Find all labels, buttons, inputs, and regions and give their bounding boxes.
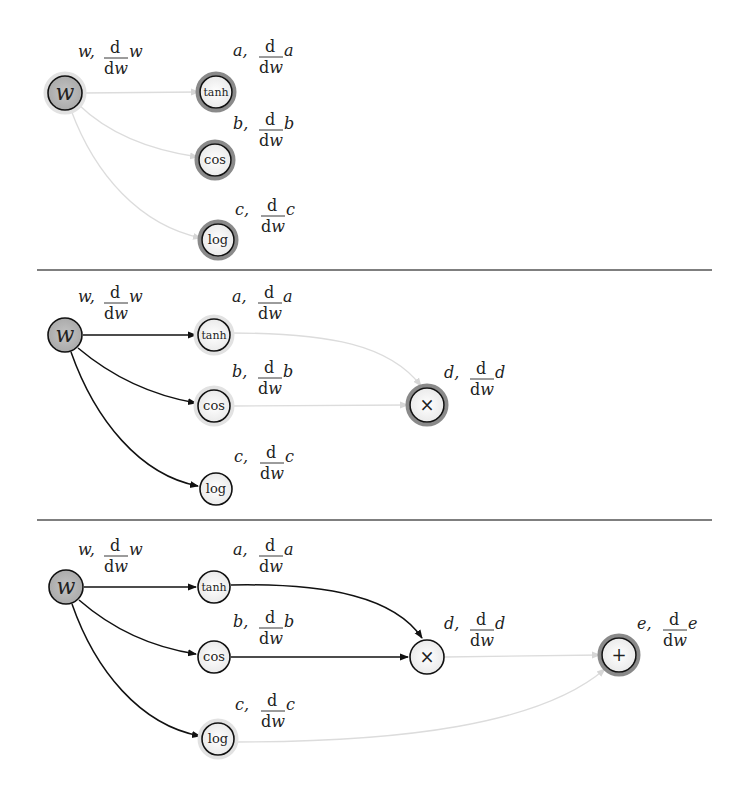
node-w[interactable]: ww,ddww	[48, 283, 143, 352]
node-w[interactable]: ww,ddww	[46, 38, 144, 113]
derivative-target-symbol: d	[495, 614, 505, 633]
value-symbol: a,	[233, 41, 248, 60]
panel-3: ww,ddwwtanha,ddwacosb,ddwblogc,ddwc×d,dd…	[49, 536, 697, 758]
derivative-numerator: d	[267, 691, 277, 710]
derivative-target-symbol: a	[284, 540, 294, 559]
node-glyph-log: log	[208, 232, 228, 247]
edge-w-to-log	[71, 352, 198, 486]
derivative-numerator: d	[265, 608, 275, 627]
derivative-target-symbol: e	[688, 614, 697, 633]
value-symbol: c,	[235, 695, 249, 714]
derivative-label-b: b,ddwb	[233, 110, 294, 150]
derivative-label-w: w,ddww	[78, 283, 143, 323]
derivative-numerator: d	[476, 610, 486, 629]
edge-cos-to-mul	[231, 405, 408, 406]
derivative-numerator: d	[267, 196, 277, 215]
node-glyph-w: w	[57, 574, 76, 599]
node-glyph-mul: ×	[419, 394, 434, 415]
derivative-label-c: c,ddwc	[234, 443, 294, 483]
node-mul[interactable]: ×d,ddwd	[410, 610, 505, 674]
value-symbol: d,	[444, 614, 459, 633]
panels: ww,ddwwtanha,ddwacosb,ddwblogc,ddwcww,dd…	[46, 37, 698, 758]
derivative-denominator: dw	[261, 712, 285, 731]
derivative-numerator: d	[110, 536, 120, 555]
derivative-numerator: d	[110, 283, 120, 302]
node-glyph-log: log	[208, 731, 228, 746]
derivative-label-w: w,ddww	[78, 38, 143, 78]
derivative-label-b: b,ddwb	[233, 608, 294, 648]
derivative-label-w: w,ddww	[78, 536, 143, 576]
nodes: ww,ddwwtanha,ddwacosb,ddwblogc,ddwc×d,dd…	[48, 283, 505, 505]
node-glyph-w: w	[56, 322, 75, 347]
node-log[interactable]: logc,ddwc	[200, 443, 294, 505]
derivative-label-e: e,ddwe	[637, 610, 697, 650]
value-symbol: w,	[78, 540, 95, 559]
derivative-denominator: dw	[663, 631, 687, 650]
edge-w-to-log	[71, 110, 201, 238]
derivative-numerator: d	[265, 37, 275, 56]
derivative-label-c: c,ddwc	[235, 196, 295, 236]
derivative-label-b: b,ddwb	[232, 358, 293, 398]
node-glyph-tanh: tanh	[203, 86, 228, 99]
computation-graph-canvas: ww,ddwwtanha,ddwacosb,ddwblogc,ddwcww,dd…	[0, 0, 742, 797]
derivative-numerator: d	[110, 38, 120, 57]
node-tanh[interactable]: tanha,ddwa	[198, 37, 294, 111]
node-glyph-cos: cos	[203, 649, 225, 664]
derivative-denominator: dw	[470, 631, 494, 650]
node-glyph-cos: cos	[204, 152, 226, 167]
value-symbol: a,	[232, 287, 247, 306]
derivative-numerator: d	[264, 283, 274, 302]
node-add[interactable]: +e,ddwe	[600, 610, 698, 675]
derivative-denominator: dw	[104, 59, 128, 78]
nodes: ww,ddwwtanha,ddwacosb,ddwblogc,ddwc×d,dd…	[49, 536, 697, 758]
derivative-denominator: dw	[258, 304, 282, 323]
node-cos[interactable]: cosb,ddwb	[196, 358, 294, 425]
value-symbol: a,	[233, 540, 248, 559]
edge-w-to-cos	[79, 600, 196, 654]
value-symbol: c,	[234, 447, 248, 466]
derivative-label-c: c,ddwc	[235, 691, 295, 731]
panel-1: ww,ddwwtanha,ddwacosb,ddwblogc,ddwc	[46, 37, 296, 259]
value-symbol: d,	[444, 363, 459, 382]
edge-w-to-cos	[79, 105, 198, 157]
derivative-label-d: d,ddwd	[444, 359, 505, 399]
derivative-label-a: a,ddwa	[233, 536, 294, 576]
edge-mul-to-add	[445, 655, 600, 657]
derivative-denominator: dw	[259, 629, 283, 648]
derivative-target-symbol: c	[286, 200, 295, 219]
derivative-denominator: dw	[259, 557, 283, 576]
node-glyph-tanh: tanh	[201, 329, 226, 342]
derivative-numerator: d	[264, 358, 274, 377]
derivative-target-symbol: a	[284, 41, 294, 60]
derivative-target-symbol: w	[129, 540, 143, 559]
derivative-denominator: dw	[258, 379, 282, 398]
node-log[interactable]: logc,ddwc	[200, 691, 296, 758]
derivative-target-symbol: b	[284, 114, 294, 133]
value-symbol: c,	[235, 200, 249, 219]
derivative-target-symbol: c	[286, 695, 295, 714]
derivative-target-symbol: c	[285, 447, 294, 466]
node-log[interactable]: logc,ddwc	[200, 196, 296, 259]
node-tanh[interactable]: tanha,ddwa	[196, 283, 293, 354]
node-w[interactable]: ww,ddww	[49, 536, 143, 604]
node-glyph-tanh: tanh	[201, 581, 226, 594]
derivative-target-symbol: b	[284, 612, 294, 631]
node-cos[interactable]: cosb,ddwb	[197, 110, 295, 179]
panel-separators	[37, 270, 712, 520]
derivative-target-symbol: a	[283, 287, 293, 306]
node-cos[interactable]: cosb,ddwb	[198, 608, 294, 673]
edges	[72, 585, 605, 742]
value-symbol: e,	[637, 614, 652, 633]
derivative-label-a: a,ddwa	[233, 37, 294, 77]
node-glyph-w: w	[56, 80, 75, 105]
derivative-target-symbol: d	[495, 363, 505, 382]
value-symbol: b,	[233, 114, 248, 133]
edge-w-to-cos	[78, 348, 196, 403]
node-mul[interactable]: ×d,ddwd	[408, 359, 506, 425]
derivative-numerator: d	[266, 443, 276, 462]
value-symbol: b,	[233, 612, 248, 631]
derivative-target-symbol: b	[283, 362, 293, 381]
node-tanh[interactable]: tanha,ddwa	[198, 536, 294, 603]
node-glyph-cos: cos	[203, 398, 225, 413]
edges	[71, 92, 201, 238]
